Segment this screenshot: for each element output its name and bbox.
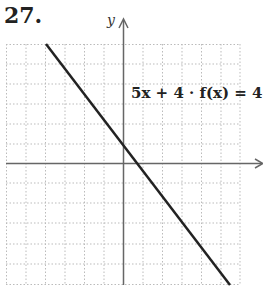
coordinate-plane [0, 0, 263, 297]
equation-label: 5x + 4 · f(x) = 4 [131, 84, 263, 102]
function-line [46, 44, 230, 285]
axes [6, 19, 263, 285]
